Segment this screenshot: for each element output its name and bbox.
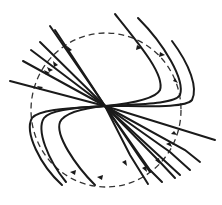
center-point: [104, 105, 107, 108]
curved-field-lines-upper-right: [105, 14, 194, 106]
field-line-diagram: [0, 0, 222, 205]
curved-field-lines-lower-left: [30, 106, 105, 185]
